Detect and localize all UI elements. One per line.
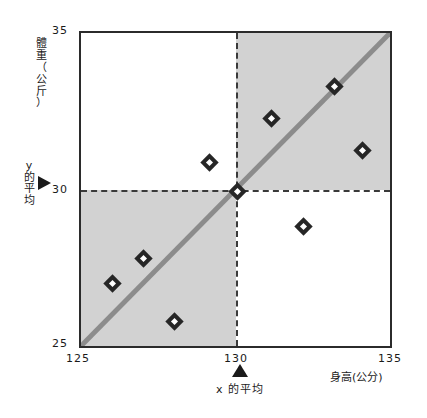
y-mean-label-line-3: 均 — [22, 195, 36, 207]
y-axis-title: 體 重 （ 公 斤 ） — [30, 38, 52, 109]
y-axis-title-char-5: ） — [30, 97, 52, 109]
y-mean-label-line-0: y — [22, 160, 36, 172]
y-mean-annotation: y 的 平 均 — [22, 160, 51, 206]
arrow-right-icon — [38, 176, 51, 190]
y-tick-label-25: 25 — [52, 337, 68, 350]
x-mean-annotation: x 的平均 — [196, 364, 284, 396]
x-axis-title: 身高(公分) — [330, 368, 383, 384]
plot-area — [79, 31, 392, 348]
y-axis-title-char-3: 公 — [30, 74, 52, 86]
y-tick-label-30: 30 — [52, 183, 68, 196]
y-axis-title-char-1: 重 — [30, 50, 52, 62]
arrow-up-icon — [232, 364, 248, 377]
y-mean-label: y 的 平 均 — [22, 160, 36, 206]
x-tick-label-125: 125 — [66, 352, 90, 365]
scatter-plot-figure: 體 重 （ 公 斤 ） y 的 平 均 35 30 25 125 130 135… — [0, 0, 427, 418]
y-tick-label-35: 35 — [52, 24, 68, 37]
y-mean-label-line-2: 平 — [22, 183, 36, 195]
x-mean-label: x 的平均 — [196, 380, 284, 396]
x-tick-label-135: 135 — [378, 352, 402, 365]
y-axis-title-char-2: （ — [30, 62, 52, 74]
